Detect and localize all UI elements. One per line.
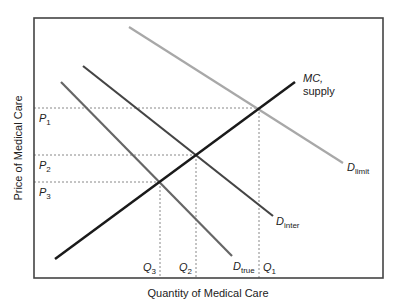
y-axis-label: Price of Medical Care — [12, 95, 24, 200]
plot-frame — [34, 18, 383, 278]
price-label-1: P1 — [39, 112, 51, 127]
labels: DlimitDinterDtrueMC,supplyP1P2P3Q3Q2Q1 — [39, 72, 370, 276]
quantity-label-1: Q1 — [263, 261, 277, 276]
price-label-2: P2 — [39, 159, 51, 174]
d-limit-label: Dlimit — [347, 161, 370, 176]
mc-supply-label: MC, — [303, 72, 323, 84]
price-label-3: P3 — [39, 186, 51, 201]
d-inter-curve — [83, 66, 273, 216]
quantity-label-2: Q2 — [179, 261, 193, 276]
d-true-label: Dtrue — [233, 260, 255, 275]
mc-supply-sublabel: supply — [303, 85, 335, 97]
quantity-label-3: Q3 — [143, 261, 157, 276]
curves — [55, 27, 343, 259]
d-inter-label: Dinter — [276, 215, 300, 230]
x-axis-label: Quantity of Medical Care — [147, 287, 268, 299]
medical-care-demand-diagram: DlimitDinterDtrueMC,supplyP1P2P3Q3Q2Q1 Q… — [0, 0, 400, 302]
